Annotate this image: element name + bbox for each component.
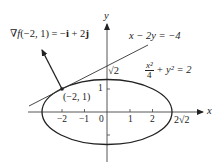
origin-label: 0 xyxy=(99,115,104,125)
fraction-denominator: 4 xyxy=(145,71,154,80)
gradient-label: ∇f(−2, 1) = −i + 2j xyxy=(10,29,89,40)
y-axis-label: y xyxy=(104,11,109,22)
x-tick-label-neg1: −1 xyxy=(79,115,89,125)
equation-rest: + y² = 2 xyxy=(156,64,191,75)
x-tick-label-1: 1 xyxy=(128,115,133,125)
x-tick-label-neg2: −2 xyxy=(57,115,67,125)
tangent-line-equation: x − 2y = −4 xyxy=(129,31,181,42)
x-axis-label: x xyxy=(207,106,212,117)
y-tick-label-1: 1 xyxy=(98,84,103,94)
tangent-equation-text: x − 2y = −4 xyxy=(129,30,181,41)
gradient-mid: + 2 xyxy=(69,28,85,39)
gradient-vector xyxy=(42,50,62,89)
diagram-canvas xyxy=(0,0,222,166)
unit-j: j xyxy=(85,28,89,39)
point-label: (−2, 1) xyxy=(63,92,90,102)
x-intercept-label: 2√2 xyxy=(174,115,190,125)
equation-fraction: x² 4 xyxy=(145,61,154,80)
y-intercept-label: √2 xyxy=(108,66,119,77)
ellipse-equation: x² 4 + y² = 2 xyxy=(145,61,191,80)
gradient-args: (−2, 1) = − xyxy=(20,28,66,39)
x-tick-label-2: 2 xyxy=(150,115,155,125)
ellipse-gradient-diagram: ∇f(−2, 1) = −i + 2j y x x − 2y = −4 √2 x… xyxy=(0,0,222,166)
